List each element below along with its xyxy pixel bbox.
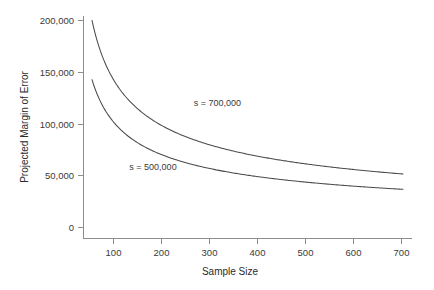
y-tick-label-50000: 50,000 [45, 170, 74, 181]
x-axis-ticks [114, 239, 402, 245]
series-annotation-700000: s = 700,000 [194, 98, 241, 108]
x-tick-label-400: 400 [250, 247, 266, 258]
chart-plot-area: 200,000 150,000 100,000 50,000 0 100 200… [0, 0, 434, 290]
y-tick-label-150000: 150,000 [40, 67, 74, 78]
x-tick-label-700: 700 [394, 247, 410, 258]
series-annotation-500000: s = 500,000 [129, 162, 176, 172]
x-tick-label-100: 100 [106, 247, 122, 258]
curve-s-500000 [92, 80, 403, 190]
y-tick-label-100000: 100,000 [40, 119, 74, 130]
y-tick-label-0: 0 [69, 222, 74, 233]
x-tick-label-300: 300 [202, 247, 218, 258]
x-axis-title: Sample Size [202, 266, 259, 277]
x-tick-label-500: 500 [298, 247, 314, 258]
chart-figure: 200,000 150,000 100,000 50,000 0 100 200… [0, 0, 434, 290]
y-axis-title: Projected Margin of Error [19, 70, 30, 182]
x-axis-tick-labels: 100 200 300 400 500 600 700 [106, 247, 410, 258]
y-axis-tick-labels: 200,000 150,000 100,000 50,000 0 [40, 15, 74, 233]
x-tick-label-200: 200 [154, 247, 170, 258]
y-tick-label-200000: 200,000 [40, 15, 74, 26]
x-tick-label-600: 600 [346, 247, 362, 258]
curve-s-700000 [92, 20, 403, 174]
y-axis-ticks [78, 21, 84, 228]
